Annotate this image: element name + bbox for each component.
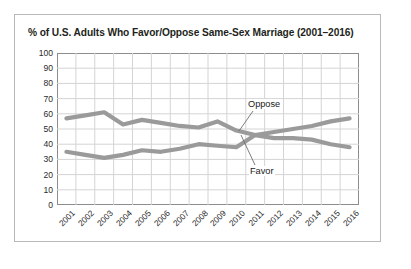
series-label-oppose: Oppose (247, 99, 281, 109)
y-tick-10: 10 (19, 185, 53, 195)
y-tick-50: 50 (19, 124, 53, 134)
plot-wrapper: Oppose Favor (57, 53, 359, 205)
y-tick-20: 20 (19, 170, 53, 180)
y-tick-40: 40 (19, 139, 53, 149)
y-tick-0: 0 (19, 200, 53, 210)
y-tick-60: 60 (19, 109, 53, 119)
y-tick-30: 30 (19, 154, 53, 164)
y-tick-70: 70 (19, 94, 53, 104)
x-axis-tick-labels: 2001200220032004200520062007200820092010… (57, 205, 359, 245)
chart-card: % of U.S. Adults Who Favor/Oppose Same-S… (14, 14, 381, 242)
y-tick-90: 90 (19, 63, 53, 73)
series-label-favor: Favor (249, 166, 275, 176)
chart-title: % of U.S. Adults Who Favor/Oppose Same-S… (28, 27, 354, 38)
y-tick-80: 80 (19, 78, 53, 88)
y-axis-tick-labels: 0102030405060708090100 (17, 53, 53, 205)
annotation-leader-lines (57, 53, 359, 205)
y-tick-100: 100 (19, 48, 53, 58)
